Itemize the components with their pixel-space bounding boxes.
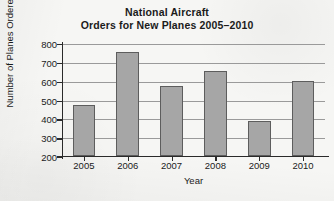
y-axis-tick-mark xyxy=(57,101,63,102)
x-axis-tick-label-2005: 2005 xyxy=(73,160,94,171)
x-axis-line xyxy=(57,156,329,157)
x-axis-tick-label-2010: 2010 xyxy=(293,160,314,171)
bar-chart-figure: National Aircraft Orders for New Planes … xyxy=(0,0,334,201)
gridline xyxy=(62,119,325,120)
bar-2008 xyxy=(204,71,227,156)
bar-2007 xyxy=(160,86,183,156)
gridline xyxy=(62,44,325,45)
y-axis-tick-mark xyxy=(57,44,63,45)
bar-2010 xyxy=(292,81,315,156)
y-axis-tick-label: 400 xyxy=(41,114,57,125)
y-axis-tick-label: 500 xyxy=(41,95,57,106)
chart-title: National Aircraft Orders for New Planes … xyxy=(0,6,334,32)
y-axis-tick-mark xyxy=(57,138,63,139)
gridline xyxy=(62,101,325,102)
gridline xyxy=(62,63,325,64)
y-axis-title: Number of Planes Ordered xyxy=(3,0,17,108)
bar-2005 xyxy=(73,105,96,156)
y-axis-tick-label: 600 xyxy=(41,76,57,87)
x-axis-tick-label-2008: 2008 xyxy=(205,160,226,171)
y-axis-tick-label: 200 xyxy=(41,152,57,163)
y-axis-tick-mark xyxy=(57,63,63,64)
bar-2009 xyxy=(248,121,271,156)
chart-title-line-1: National Aircraft xyxy=(0,6,334,19)
y-axis-tick-mark xyxy=(57,157,63,158)
x-axis-tick-label-2009: 2009 xyxy=(249,160,270,171)
plot-area xyxy=(62,44,325,157)
x-axis-tick-label-2006: 2006 xyxy=(117,160,138,171)
gridline xyxy=(62,138,325,139)
gridline xyxy=(62,82,325,83)
y-axis-tick-label: 800 xyxy=(41,39,57,50)
chart-title-line-2: Orders for New Planes 2005–2010 xyxy=(0,19,334,32)
y-axis-tick-label: 700 xyxy=(41,57,57,68)
bar-2006 xyxy=(116,52,139,156)
x-axis-title: Year xyxy=(62,175,325,186)
y-axis-tick-mark xyxy=(57,82,63,83)
x-axis-tick-labels: 200520062007200820092010 xyxy=(62,160,325,173)
y-axis-tick-mark xyxy=(57,119,63,120)
y-axis-tick-labels: 200300400500600700800 xyxy=(26,44,57,157)
y-axis-tick-label: 300 xyxy=(41,133,57,144)
x-axis-tick-label-2007: 2007 xyxy=(161,160,182,171)
